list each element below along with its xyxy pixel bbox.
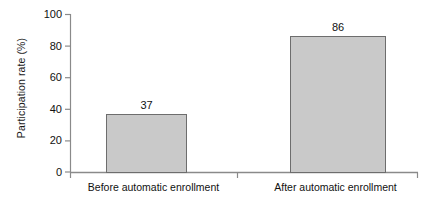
y-tick-label-group: 100 80 60 40 20 0 [28,0,62,204]
bar-after-automatic-enrollment [290,36,386,173]
y-tick-label-100: 100 [28,9,62,20]
x-category-label-before: Before automatic enrollment [66,181,241,193]
bar-value-label-before: 37 [106,99,187,111]
x-category-label-after: After automatic enrollment [248,181,423,193]
bar-before-automatic-enrollment [106,114,187,173]
y-tick-label-20: 20 [28,135,62,146]
bar-value-label-after: 86 [290,21,386,33]
y-tick-label-60: 60 [28,72,62,83]
y-tick-label-80: 80 [28,41,62,52]
bar-chart: Participation rate (%) 100 80 60 40 20 0… [0,0,437,204]
y-tick-label-0: 0 [28,167,62,178]
y-tick-label-40: 40 [28,104,62,115]
